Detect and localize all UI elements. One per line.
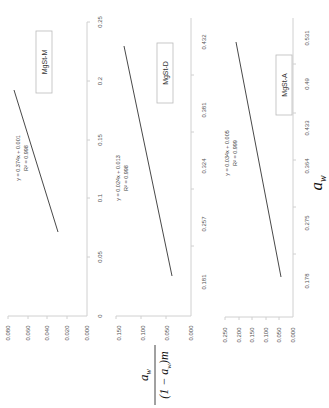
x-tick: 0.364 <box>304 158 310 174</box>
x-tick: 0.324 <box>201 158 207 174</box>
r2-label: R² = 0.998 <box>23 145 29 171</box>
x-tick: 0 <box>97 314 103 318</box>
series-label: MgSt-M <box>41 50 49 75</box>
x-tick: 0.531 <box>304 30 310 46</box>
y-tick: 0.060 <box>25 325 31 341</box>
panel-mgst-m: 0 0.05 0.1 0.15 0.2 0.25 0.080 0.060 0.0… <box>5 16 103 341</box>
panel-mgst-a: 0.178 0.275 0.364 0.433 0.49 0.531 0.250… <box>222 18 310 343</box>
x-tick: 0.1 <box>97 193 103 202</box>
equation-label: y = 0.024x + 0.013 <box>115 155 121 201</box>
series-label: MgSt-A <box>281 73 289 97</box>
r2-label: R² = 0.999 <box>232 140 238 166</box>
y-tick: 0.250 <box>222 327 228 343</box>
y-tick: 0.200 <box>236 327 242 343</box>
y-tick: 0.040 <box>44 325 50 341</box>
x-tick: 0.275 <box>304 215 310 231</box>
svg-text:aw: aw <box>307 175 328 191</box>
y-axis-title: aw (1 − aw)m <box>136 345 173 405</box>
figure-canvas: 0 0.05 0.1 0.15 0.2 0.25 0.080 0.060 0.0… <box>0 0 329 408</box>
y-tick: 0.150 <box>116 325 122 341</box>
x-tick: 0.257 <box>201 216 207 232</box>
y-tick: 0.000 <box>188 325 194 341</box>
equation-label: y = 0.034x + 0.005 <box>224 130 230 176</box>
x-tick: 0.178 <box>304 273 310 289</box>
x-tick: 0.25 <box>97 16 103 28</box>
trendline <box>236 42 281 277</box>
x-tick: 0.433 <box>304 120 310 136</box>
y-tick: 0.100 <box>263 327 269 343</box>
y-tick: 0.100 <box>140 325 146 341</box>
x-tick: 0.15 <box>97 134 103 146</box>
equation-label: y = 0.374x + 0.001 <box>15 135 21 181</box>
svg-text:(1 − aw)m: (1 − aw)m <box>157 351 173 399</box>
x-tick: 0.49 <box>304 78 310 90</box>
y-tick: 0.000 <box>84 325 90 341</box>
x-axis-title: aw <box>307 175 328 191</box>
panel-mgst-d: 0.181 0.257 0.324 0.381 0.432 0.150 0.10… <box>115 18 207 341</box>
series-label: MgSt-D <box>162 61 170 85</box>
r2-label: R² = 0.998 <box>123 165 129 191</box>
svg-text:aw: aw <box>136 368 153 381</box>
x-tick: 0.2 <box>97 76 103 85</box>
y-tick: 0.150 <box>249 327 255 343</box>
y-tick: 0.050 <box>164 325 170 341</box>
x-tick: 0.181 <box>201 274 207 290</box>
x-tick: 0.432 <box>201 34 207 50</box>
y-tick: 0.020 <box>64 325 70 341</box>
y-tick: 0.080 <box>5 325 11 341</box>
y-tick: 0.000 <box>290 327 296 343</box>
y-tick: 0.050 <box>276 327 282 343</box>
x-tick: 0.381 <box>201 102 207 118</box>
x-tick: 0.05 <box>97 251 103 263</box>
